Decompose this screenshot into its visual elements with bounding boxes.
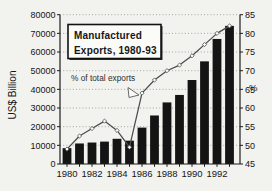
right-tick-label: 50: [245, 141, 255, 151]
bar: [138, 128, 147, 164]
x-tick-label: 1982: [81, 168, 102, 179]
x-tick-label: 1986: [131, 168, 152, 179]
right-tick-label: 60: [245, 103, 255, 113]
bar: [225, 26, 234, 164]
left-tick-label: 60000: [30, 47, 55, 57]
right-tick-label: 70: [245, 66, 255, 76]
chart-title-line2: Exports, 1980-93: [74, 45, 157, 56]
bar: [213, 39, 222, 164]
bar: [88, 143, 97, 164]
right-tick-label: 45: [245, 159, 255, 169]
left-axis-title: US$ Billion: [7, 71, 18, 120]
right-tick-label: 80: [245, 29, 255, 39]
bar: [125, 141, 134, 164]
bar: [100, 142, 109, 164]
left-tick-label: 10000: [30, 141, 55, 151]
manufactured-exports-chart: 0100002000030000400005000060000700008000…: [0, 0, 272, 191]
bar: [200, 61, 209, 164]
chart-title-box: Manufactured Exports, 1980-93: [68, 25, 163, 61]
x-tick-label: 1988: [156, 168, 177, 179]
left-tick-label: 20000: [30, 122, 55, 132]
right-tick-label: 85: [245, 10, 255, 20]
bar: [175, 95, 184, 164]
right-tick-label: 55: [245, 122, 255, 132]
right-tick-label: 75: [245, 47, 255, 57]
chart-title-line1: Manufactured: [74, 30, 142, 41]
annotation-label: % of total exports: [71, 73, 135, 83]
x-tick-label: 1992: [206, 168, 227, 179]
bar: [75, 143, 84, 164]
x-tick-label: 1980: [56, 168, 77, 179]
left-tick-label: 80000: [30, 10, 55, 20]
left-tick-label: 0: [50, 159, 55, 169]
bar: [188, 80, 197, 164]
bar: [163, 102, 172, 164]
x-tick-label: 1984: [106, 168, 127, 179]
bar: [150, 115, 159, 164]
left-tick-label: 40000: [30, 85, 55, 95]
x-tick-label: 1990: [181, 168, 202, 179]
right-axis-title: %: [249, 82, 258, 93]
left-tick-label: 70000: [30, 29, 55, 39]
left-tick-label: 50000: [30, 66, 55, 76]
line-annotation: % of total exports: [71, 73, 139, 98]
left-tick-label: 30000: [30, 103, 55, 113]
chart-figure: 0100002000030000400005000060000700008000…: [0, 0, 272, 191]
bar: [113, 139, 122, 164]
